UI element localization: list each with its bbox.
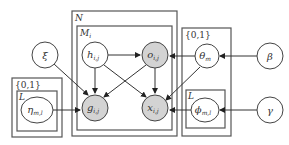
svg-text:ξ: ξ [42,50,48,61]
node-beta: β [257,43,283,69]
plate-n-label: N [74,13,84,23]
svg-text:γ: γ [267,105,273,116]
plate-left-l-label: L [18,92,25,102]
graphical-model-diagram: N Mi {0,1} L {0,1} L ξ hi,j oi,j gi,j xi… [0,0,289,145]
node-eta: ηm,l [21,97,53,123]
node-x: xi,j [142,95,168,121]
edge-theta-x [166,67,200,100]
node-o: oi,j [142,42,168,68]
plate-m-label: Mi [79,28,91,39]
node-phi: ϕm,l [191,98,219,122]
svg-text:β: β [266,51,273,62]
node-g: gi,j [82,95,108,121]
plate-left-set-label: {0,1} [15,80,41,90]
node-theta: θm [195,44,219,68]
edge-xi-g [54,64,88,95]
node-xi: ξ [32,42,58,68]
node-h: hi,j [82,42,108,68]
plate-right-set-label: {0,1} [185,30,211,40]
plate-right-l-label: L [187,91,194,101]
node-gamma: γ [257,97,283,123]
